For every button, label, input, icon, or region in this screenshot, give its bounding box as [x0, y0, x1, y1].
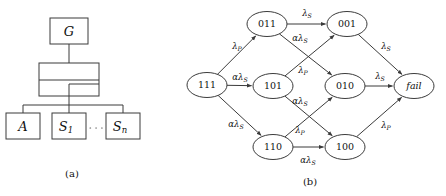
figure-root: G A S1 Sn (a): [0, 0, 446, 196]
edge-111-to-110: [218, 95, 261, 135]
edge-label-010-fail: λS: [374, 71, 385, 82]
state-node-label-111: 111: [198, 79, 216, 90]
state-node-label-011: 011: [258, 18, 276, 29]
edge-label-110-010: λP: [294, 125, 305, 136]
state-node-label-010: 010: [336, 80, 354, 91]
state-node-label-101: 101: [264, 80, 282, 91]
figure-canvas: G A S1 Sn (a): [0, 0, 446, 196]
edge-label-101-100: αλS: [292, 96, 307, 107]
state-node-label-fail: fail: [405, 80, 421, 91]
edge-label-101-001: λP: [297, 65, 308, 76]
edge-label-111-011: λP: [231, 41, 242, 52]
state-node-label-110: 110: [264, 141, 282, 152]
state-node-label-001: 001: [338, 18, 356, 29]
edge-label-111-110: αλS: [228, 119, 243, 130]
edge-100-to-fail: [357, 97, 402, 136]
caption-panel-b: (b): [303, 176, 317, 187]
panel-b: λPαλSαλSλSαλSλPαλSλPαλSλSλSλP11101100110…: [187, 8, 434, 166]
block-component-a-label: A: [17, 119, 27, 134]
connector-bus-horizontal: [23, 105, 123, 113]
edge-label-100-fail: λP: [380, 120, 391, 131]
edge-label-011-010: αλS: [292, 33, 307, 44]
block-gateway-label: G: [64, 24, 74, 39]
edge-label-111-101: αλS: [232, 72, 247, 83]
edge-label-001-fail: λS: [380, 41, 391, 52]
panel-a: G A S1 Sn (a): [6, 18, 140, 179]
state-node-label-100: 100: [336, 141, 354, 152]
edge-label-110-100: αλS: [300, 155, 315, 166]
caption-panel-a: (a): [65, 168, 79, 179]
edge-001-to-fail: [358, 34, 402, 74]
edge-label-011-001: λS: [301, 8, 312, 19]
